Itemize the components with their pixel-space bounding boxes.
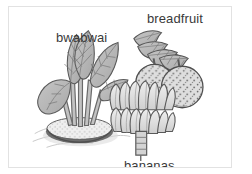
banana-bunch-drawing bbox=[110, 81, 175, 161]
illustration-page: bwabwai breadfruit bananas bbox=[0, 0, 252, 174]
label-bwabwai: bwabwai bbox=[56, 30, 107, 45]
banana-stem bbox=[136, 131, 147, 161]
label-breadfruit: breadfruit bbox=[147, 11, 203, 26]
plants-illustration bbox=[9, 7, 231, 167]
illustration-panel: bwabwai breadfruit bananas bbox=[8, 6, 232, 168]
label-bananas: bananas bbox=[124, 158, 175, 168]
banana-tier-lower bbox=[111, 108, 175, 134]
